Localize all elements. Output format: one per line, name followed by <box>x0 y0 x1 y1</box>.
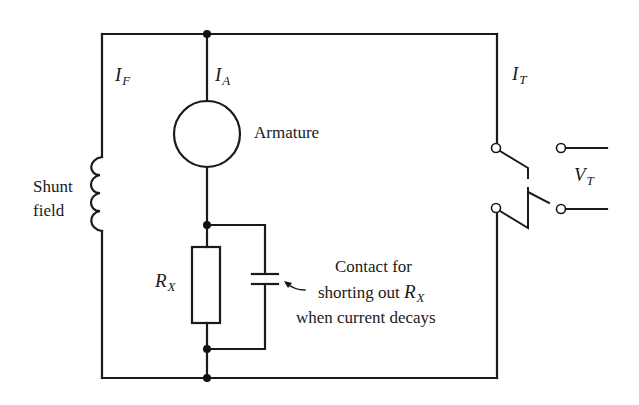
label-armature: Armature <box>254 123 319 142</box>
node-rx-top <box>203 221 211 229</box>
label-contact-line1: Contact for <box>335 257 412 276</box>
node-top <box>203 30 211 38</box>
switch-blade-lower <box>500 188 528 228</box>
label-if: IF <box>114 64 131 88</box>
circuit-diagram: IF IA IT VT RX Armature Shunt field Cont… <box>0 0 639 405</box>
node-bottom <box>203 374 211 382</box>
resistor-rx <box>192 247 220 323</box>
terminal-upper-right <box>557 144 566 153</box>
contact-bottom-wire <box>207 284 265 349</box>
terminal-lower-right <box>557 205 566 214</box>
switch-terminal-lower-left <box>492 204 501 213</box>
switch-blade-upper <box>500 151 528 178</box>
label-rx: RX <box>154 270 177 294</box>
label-it: IT <box>511 63 527 87</box>
label-contact-line2: shorting out RX <box>318 281 426 305</box>
shunt-field-coil <box>91 157 102 231</box>
label-ia: IA <box>214 64 230 88</box>
switch-blade-lower-tip <box>528 192 549 203</box>
label-shunt: Shunt <box>33 177 73 196</box>
contact-top-wire <box>207 225 265 274</box>
armature-symbol <box>174 101 240 167</box>
label-field: field <box>33 201 65 220</box>
label-contact-line3: when current decays <box>296 308 436 327</box>
label-vt: VT <box>574 164 595 188</box>
node-rx-bottom <box>203 345 211 353</box>
switch-terminal-upper-left <box>492 144 501 153</box>
